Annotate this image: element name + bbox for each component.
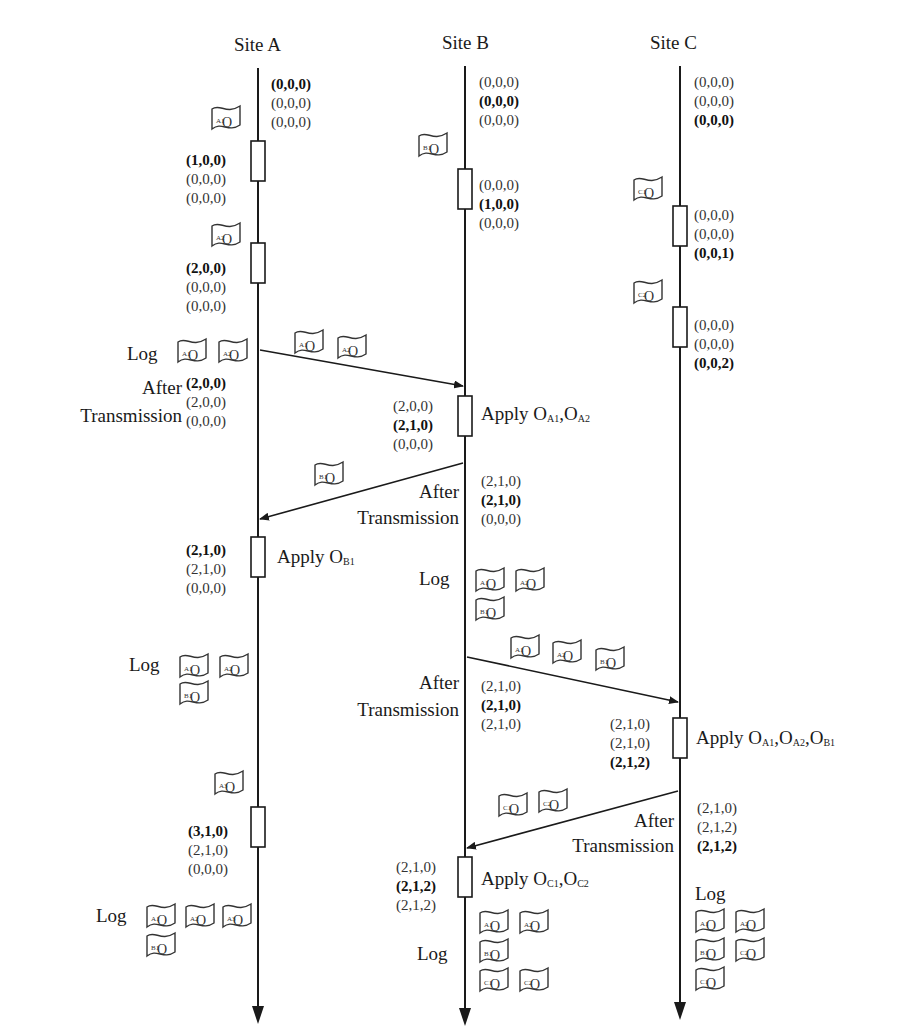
msg-op-a2: OA2 bbox=[551, 637, 583, 667]
msg-op-a1: OA1 bbox=[293, 327, 325, 357]
msg-op-a1: OA1 bbox=[509, 632, 541, 662]
log-op-a2: OA2 bbox=[518, 907, 550, 937]
site-a-vector-after-transmission: (2,0,0) (2,0,0) (0,0,0) bbox=[186, 374, 226, 431]
site-c-log-label: Log bbox=[695, 883, 726, 905]
site-a-apply-label: Apply OB1 bbox=[277, 546, 355, 573]
site-a-vector-initial: (0,0,0) (0,0,0) (0,0,0) bbox=[271, 75, 311, 132]
site-b-log-label-2: Log bbox=[417, 943, 448, 965]
log-op-c2: OC2 bbox=[518, 965, 550, 995]
site-b-vector-after-apply-c: (2,1,0) (2,1,2) (2,1,2) bbox=[396, 858, 436, 915]
site-c-apply-label: Apply OA1,OA2,OB1 bbox=[696, 727, 835, 754]
site-c-vector-after-transmission: (2,1,0) (2,1,2) (2,1,2) bbox=[697, 799, 737, 856]
site-c-after-transmission-label: After Transmission bbox=[520, 810, 674, 857]
site-a-title: Site A bbox=[234, 34, 281, 56]
log-op-c1: OC1 bbox=[694, 964, 726, 994]
site-a-vector-after-a2: (2,0,0) (0,0,0) (0,0,0) bbox=[186, 259, 226, 316]
site-c-vector-after-c1: (0,0,0) (0,0,0) (0,0,1) bbox=[694, 206, 734, 263]
log-op-a1: OA1 bbox=[178, 651, 210, 681]
log-op-a1: OA1 bbox=[474, 565, 506, 595]
log-op-b1: OB1 bbox=[474, 594, 506, 624]
log-op-a1: OA1 bbox=[145, 901, 177, 931]
site-c-vector-after-apply: (2,1,0) (2,1,0) (2,1,2) bbox=[610, 715, 650, 772]
site-a-vector-after-a1: (1,0,0) (0,0,0) (0,0,0) bbox=[186, 151, 226, 208]
site-c-title: Site C bbox=[650, 32, 697, 54]
site-a-log-label-3: Log bbox=[96, 905, 127, 927]
log-op-a3: OA3 bbox=[221, 901, 253, 931]
site-b-title: Site B bbox=[442, 32, 489, 54]
op-a3-flag: OA3 bbox=[213, 768, 245, 798]
log-op-b1: OB1 bbox=[178, 678, 210, 708]
site-b-apply-label-1: Apply OA1,OA2 bbox=[481, 403, 590, 430]
site-b-log-label-1: Log bbox=[419, 568, 450, 590]
site-a-log-label-1: Log bbox=[127, 343, 158, 365]
log-op-b1: OB1 bbox=[478, 936, 510, 966]
op-a1-flag: OA1 bbox=[210, 103, 242, 133]
site-b-vector-after-b1: (0,0,0) (1,0,0) (0,0,0) bbox=[479, 176, 519, 233]
op-a2-flag: OA2 bbox=[210, 220, 242, 250]
site-c-vector-initial: (0,0,0) (0,0,0) (0,0,0) bbox=[694, 73, 734, 130]
site-b-apply-label-2: Apply OC1,OC2 bbox=[481, 868, 589, 895]
log-op-b1: OB1 bbox=[145, 930, 177, 960]
log-op-c1: OC1 bbox=[478, 965, 510, 995]
log-op-a2: OA2 bbox=[734, 906, 766, 936]
log-op-a1: OA1 bbox=[176, 336, 208, 366]
site-a-after-transmission-label: After Transmission bbox=[40, 377, 182, 427]
log-op-c2: OC2 bbox=[734, 935, 766, 965]
site-b-after-transmission-label-2: After Transmission bbox=[306, 672, 459, 721]
msg-op-b1: OB1 bbox=[594, 644, 626, 674]
op-c1-flag: OC1 bbox=[632, 174, 664, 204]
site-a-log-label-2: Log bbox=[129, 654, 160, 676]
site-a-vector-after-a3: (3,1,0) (2,1,0) (0,0,0) bbox=[188, 822, 228, 879]
site-b-vector-after-transmission-2: (2,1,0) (2,1,0) (2,1,0) bbox=[481, 677, 521, 734]
site-b-vector-after-apply-a: (2,0,0) (2,1,0) (0,0,0) bbox=[393, 397, 433, 454]
site-a-vector-after-apply: (2,1,0) (2,1,0) (0,0,0) bbox=[186, 541, 226, 598]
diagram-canvas: Site A Site B Site C (0,0,0) (0,0,0) (0,… bbox=[0, 0, 906, 1036]
log-op-b1: OB1 bbox=[694, 935, 726, 965]
site-b-vector-initial: (0,0,0) (0,0,0) (0,0,0) bbox=[479, 73, 519, 130]
op-c2-flag: OC2 bbox=[632, 277, 664, 307]
log-op-a2: OA2 bbox=[218, 651, 250, 681]
log-op-a1: OA1 bbox=[694, 906, 726, 936]
log-op-a2: OA2 bbox=[514, 565, 546, 595]
op-b1-flag: OB1 bbox=[417, 130, 449, 160]
log-op-a1: OA1 bbox=[478, 907, 510, 937]
site-b-vector-after-transmission-1: (2,1,0) (2,1,0) (0,0,0) bbox=[481, 472, 521, 529]
msg-op-a2: OA2 bbox=[336, 332, 368, 362]
site-c-vector-after-c2: (0,0,0) (0,0,0) (0,0,2) bbox=[694, 316, 734, 373]
log-op-a2: OA2 bbox=[217, 336, 249, 366]
site-b-after-transmission-label-1: After Transmission bbox=[306, 481, 459, 529]
log-op-a2: OA2 bbox=[184, 901, 216, 931]
